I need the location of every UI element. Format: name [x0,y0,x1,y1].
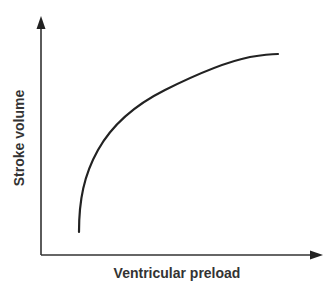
x-axis-label: Ventricular preload [114,265,241,281]
stroke-volume-curve [79,54,278,232]
frank-starling-diagram: Stroke volume Ventricular preload [0,0,336,296]
x-axis-arrow-icon [310,251,323,260]
y-axis-arrow-icon [37,16,46,29]
y-axis-label: Stroke volume [11,90,27,187]
